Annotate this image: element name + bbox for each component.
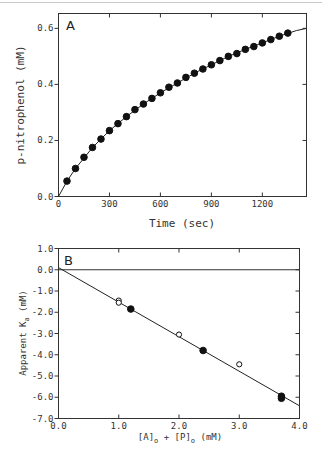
x-tick-label: 900	[203, 199, 219, 209]
open-data-point	[237, 362, 242, 367]
x-tick-label: 1.0	[111, 421, 127, 431]
y-tick-label: 0.2	[37, 135, 53, 145]
filled-data-point	[115, 120, 122, 127]
x-tick-label: 1200	[251, 199, 273, 209]
filled-data-point	[123, 113, 130, 120]
y-tick-label: 1.0	[37, 244, 53, 254]
filled-data-point	[132, 106, 139, 113]
panel-b-ticks: 0.01.02.03.04.01.00.0-1.0-2.0-3.0-4.0-5.…	[32, 244, 308, 431]
filled-data-point	[285, 30, 292, 37]
filled-data-point	[268, 36, 275, 43]
x-tick-label: 0	[56, 199, 61, 209]
panel-b-chart: 0.01.02.03.04.01.00.0-1.0-2.0-3.0-4.0-5.…	[18, 244, 308, 446]
panel-b-y-axis-label: Apparent Ka (mM)	[18, 290, 31, 376]
y-tick-label: -6.0	[32, 392, 54, 402]
filled-data-point	[81, 154, 88, 161]
filled-data-point	[183, 74, 190, 81]
filled-data-point	[191, 70, 198, 77]
y-tick-label: -2.0	[32, 307, 54, 317]
y-tick-label: -5.0	[32, 371, 54, 381]
y-tick-label: -7.0	[32, 414, 54, 424]
filled-data-point	[208, 61, 215, 68]
y-tick-label: 0.4	[37, 79, 53, 89]
panel-a-chart: 030060090012000.00.20.40.6 A Time (sec) …	[14, 14, 307, 231]
panel-a-letter: A	[66, 18, 75, 33]
panel-a-x-axis-label: Time (sec)	[149, 217, 215, 230]
y-tick-label: -4.0	[32, 350, 54, 360]
filled-data-point	[200, 66, 207, 73]
filled-data-point	[242, 46, 249, 53]
panel-b-data-points	[116, 298, 285, 402]
filled-data-point	[72, 165, 79, 172]
panel-b-x-axis-label: [A]o + [P]o (mM)	[138, 432, 222, 445]
panel-a-fit-curve	[59, 28, 307, 196]
filled-data-point	[225, 53, 232, 60]
filled-data-point	[259, 40, 266, 47]
y-tick-label: -3.0	[32, 329, 54, 339]
filled-data-point	[140, 101, 147, 108]
filled-data-point	[64, 178, 71, 185]
x-tick-label: 3.0	[231, 421, 247, 431]
x-tick-label: 2.0	[171, 421, 187, 431]
panel-a-y-axis-label: p-nitrophenol (mM)	[14, 45, 27, 164]
filled-data-point	[166, 84, 173, 91]
fit-line	[59, 28, 307, 196]
figure: 030060090012000.00.20.40.6 A Time (sec) …	[0, 0, 322, 455]
y-tick-label: 0.0	[37, 265, 53, 275]
filled-data-point	[251, 43, 258, 50]
y-tick-label: 0.6	[37, 23, 53, 33]
filled-data-point	[157, 90, 164, 97]
filled-data-point	[128, 306, 135, 313]
filled-data-point	[276, 33, 283, 40]
x-tick-label: 300	[101, 199, 117, 209]
x-tick-label: 600	[152, 199, 168, 209]
panel-a-data-points	[64, 30, 291, 185]
filled-data-point	[98, 136, 105, 143]
panel-b-letter: B	[64, 253, 73, 268]
filled-data-point	[234, 50, 241, 57]
filled-data-point	[149, 95, 156, 102]
filled-data-point	[200, 347, 207, 354]
filled-data-point	[217, 57, 224, 64]
open-data-point	[116, 300, 121, 305]
filled-data-point	[89, 144, 96, 151]
y-tick-label: -1.0	[32, 286, 54, 296]
y-tick-label: 0.0	[37, 192, 53, 202]
filled-data-point	[278, 395, 285, 402]
filled-data-point	[174, 80, 181, 87]
x-tick-label: 4.0	[291, 421, 307, 431]
open-data-point	[176, 332, 181, 337]
filled-data-point	[106, 127, 113, 134]
